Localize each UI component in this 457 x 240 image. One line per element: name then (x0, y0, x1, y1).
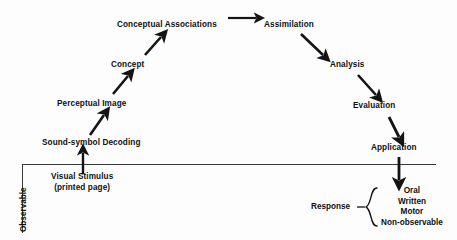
node-visual-stimulus-line2: (printed page) (51, 183, 113, 194)
arrow-assimilation-to-analysis (301, 34, 323, 55)
node-conceptual-associations: Conceptual Associations (117, 20, 217, 31)
response-item-oral: Oral (381, 186, 443, 197)
response-items-list: Oral Written Motor Non-observable (381, 186, 443, 228)
node-assimilation: Assimilation (264, 20, 314, 31)
observable-axis-label: Observable (19, 187, 28, 232)
reading-process-diagram: Observable Visual Stimulus (printed page… (0, 0, 457, 240)
arrow-evaluation-to-application (389, 117, 399, 137)
node-visual-stimulus-line1: Visual Stimulus (51, 172, 113, 183)
node-application: Application (371, 143, 417, 154)
arrow-perceptual-to-concept (113, 76, 128, 94)
node-concept: Concept (111, 60, 144, 71)
node-sound-symbol-decoding: Sound-symbol Decoding (42, 138, 141, 149)
arrow-decoding-to-perceptual (90, 115, 104, 135)
node-visual-stimulus: Visual Stimulus (printed page) (51, 172, 113, 193)
response-item-motor: Motor (381, 207, 443, 218)
response-item-non-observable: Non-observable (381, 218, 443, 229)
response-curly-brace (366, 188, 377, 226)
node-perceptual-image: Perceptual Image (57, 99, 126, 110)
arrow-analysis-to-evaluation (358, 75, 376, 95)
node-evaluation: Evaluation (353, 101, 395, 112)
response-label: Response (311, 202, 350, 211)
arrow-concept-to-associations (145, 37, 161, 55)
node-analysis: Analysis (330, 60, 364, 71)
response-item-written: Written (381, 197, 443, 208)
